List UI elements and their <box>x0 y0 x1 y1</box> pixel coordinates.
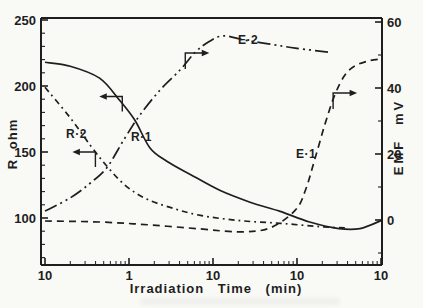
axis-marker-r1 <box>105 97 122 112</box>
axis-marker-r2-arrowhead <box>72 149 80 156</box>
axis-marker-r2 <box>78 152 95 167</box>
axis-marker-r1-arrowhead <box>99 93 107 100</box>
curve-label-r1: R·1 <box>131 130 152 144</box>
scan-artifact <box>140 298 340 305</box>
axis-marker-e1 <box>333 93 351 109</box>
left-axis-tick-label: 100 <box>14 211 36 226</box>
x-axis-title: Irradiation Time (min) <box>96 281 336 296</box>
figure-resistance-emf-chart: 2502001501006040200101101010 R ohm EMF m… <box>0 0 423 308</box>
left-axis-tick-label: 200 <box>14 79 36 94</box>
x-axis-tick-label: 10 <box>374 268 388 283</box>
right-axis-title: EMF mV <box>391 91 407 183</box>
left-axis-tick-label: 250 <box>14 13 36 28</box>
right-axis-tick-label: 0 <box>387 213 394 228</box>
curve-e2 <box>45 36 330 211</box>
left-axis-title: R ohm <box>5 104 21 184</box>
curve-e1 <box>45 59 381 232</box>
curve-label-r2: R·2 <box>66 127 87 141</box>
curve-r1 <box>45 62 381 229</box>
axis-marker-e1-arrowhead <box>350 90 358 97</box>
chart-canvas: 2502001501006040200101101010 <box>0 0 423 308</box>
curve-label-e2: E·2 <box>238 33 258 47</box>
x-axis-tick-label: 10 <box>38 268 52 283</box>
curve-label-e1: E·1 <box>296 147 316 161</box>
axis-marker-e2-arrowhead <box>202 50 210 57</box>
right-axis-tick-label: 60 <box>387 15 401 30</box>
